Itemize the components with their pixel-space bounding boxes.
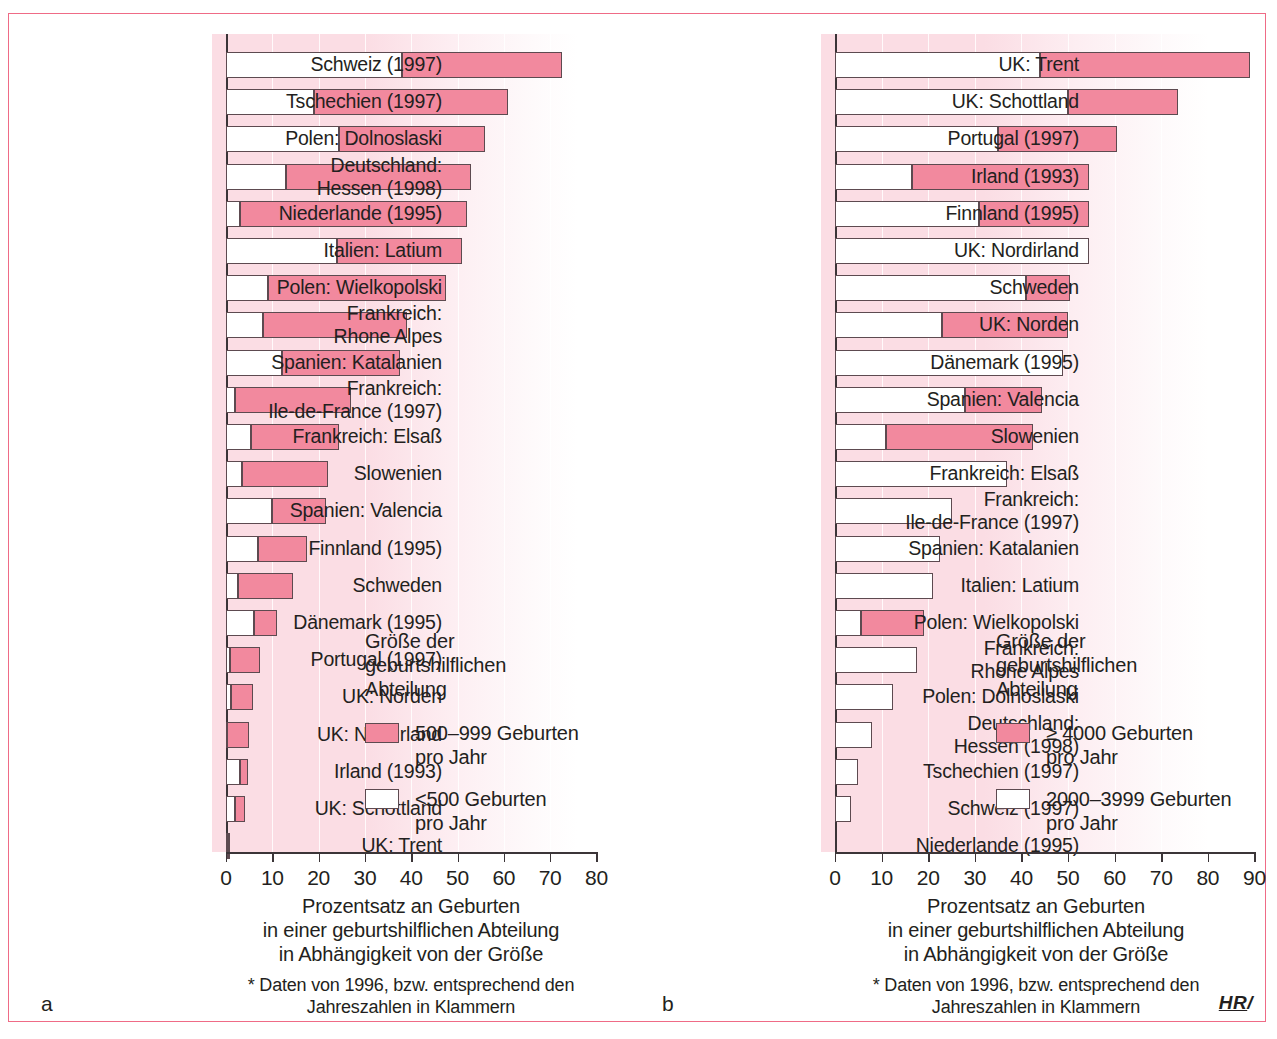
- figure-frame: Schweiz (1997)Tschechien (1997)Polen: Do…: [8, 13, 1266, 1022]
- x-axis-tick: [1068, 854, 1069, 862]
- x-axis-tick: [1115, 854, 1116, 862]
- legend-entry-white-b: 2000–3999 Geburten pro Jahr: [996, 787, 1261, 835]
- x-axis-tick: [411, 854, 412, 862]
- legend-label-pink-b: ≥ 4000 Geburten pro Jahr: [1046, 721, 1193, 769]
- x-axis-tick: [975, 854, 976, 862]
- x-axis-tick: [1161, 854, 1162, 862]
- legend-b: Größe der geburtshilflichen Abteilung ≥ …: [996, 629, 1261, 853]
- category-label: Irland (1993): [626, 165, 1079, 187]
- x-axis-tick: [1208, 854, 1209, 862]
- x-axis-tick-label: 0: [815, 866, 855, 890]
- category-label: Spanien: Valencia: [626, 388, 1079, 410]
- legend-swatch-pink-icon-b: [996, 723, 1030, 743]
- category-label: Spanien: Katalanien: [9, 351, 442, 373]
- x-axis-tick-label: 30: [345, 866, 385, 890]
- category-label: Polen: Wielkopolski: [9, 276, 442, 298]
- x-axis-tick-label: 70: [530, 866, 570, 890]
- x-axis-tick: [365, 854, 366, 862]
- legend-a: Größe der geburtshilflichen Abteilung 50…: [365, 629, 615, 853]
- category-label: Spanien: Valencia: [9, 499, 442, 521]
- category-label: Slowenien: [9, 462, 442, 484]
- legend-label-pink-a: 500–999 Geburten pro Jahr: [415, 721, 579, 769]
- x-axis-tick: [226, 854, 227, 862]
- footnote-a: * Daten von 1996, bzw. entsprechend den …: [181, 974, 641, 1018]
- x-axis-tick: [835, 854, 836, 862]
- category-label: UK: Trent: [626, 53, 1079, 75]
- category-label: Schweiz (1997): [9, 53, 442, 75]
- bar-segment-upper: [1068, 89, 1178, 115]
- panel-letter-a: a: [41, 992, 53, 1016]
- x-axis-tick: [928, 854, 929, 862]
- legend-swatch-white-icon-a: [365, 789, 399, 809]
- x-axis-tick-label: 60: [484, 866, 524, 890]
- x-axis-tick-label: 30: [955, 866, 995, 890]
- panel-b: UK: TrentUK: SchottlandPortugal (1997)Ir…: [626, 14, 1267, 1021]
- legend-label-white-a: <500 Geburten pro Jahr: [415, 787, 546, 835]
- legend-entry-white-a: <500 Geburten pro Jahr: [365, 787, 615, 835]
- category-label: Niederlande (1995): [9, 202, 442, 224]
- category-label: Schweden: [626, 276, 1079, 298]
- legend-swatch-pink-icon-a: [365, 723, 399, 743]
- x-axis-tick: [1254, 854, 1255, 862]
- x-axis-tick-label: 0: [206, 866, 246, 890]
- legend-label-white-b: 2000–3999 Geburten pro Jahr: [1046, 787, 1231, 835]
- x-axis-tick-label: 80: [576, 866, 616, 890]
- x-axis-tick-label: 20: [299, 866, 339, 890]
- credit-text: HR: [1219, 992, 1247, 1013]
- legend-title-a: Größe der geburtshilflichen Abteilung: [365, 629, 615, 701]
- x-axis-tick: [272, 854, 273, 862]
- x-axis-tick: [319, 854, 320, 862]
- legend-entry-pink-a: 500–999 Geburten pro Jahr: [365, 721, 615, 769]
- x-axis-tick-label: 50: [1048, 866, 1088, 890]
- x-axis-tick-label: 10: [862, 866, 902, 890]
- panel-letter-b: b: [662, 992, 674, 1016]
- x-axis-tick-label: 90: [1234, 866, 1274, 890]
- category-label: UK: Norden: [626, 313, 1079, 335]
- x-axis-tick-label: 10: [252, 866, 292, 890]
- category-label: Portugal (1997): [626, 127, 1079, 149]
- category-label: Frankreich: Ile-de-France (1997): [626, 488, 1079, 534]
- x-axis-tick: [596, 854, 597, 862]
- x-axis-tick: [550, 854, 551, 862]
- x-axis-tick-label: 50: [438, 866, 478, 890]
- category-label: Finnland (1995): [626, 202, 1079, 224]
- x-axis-tick-label: 60: [1095, 866, 1135, 890]
- legend-title-b: Größe der geburtshilflichen Abteilung: [996, 629, 1261, 701]
- credit-mark: HR/: [1219, 992, 1253, 1014]
- x-axis-tick: [1021, 854, 1022, 862]
- category-label: Deutschland: Hessen (1998): [9, 154, 442, 200]
- category-label: Finnland (1995): [9, 537, 442, 559]
- category-label: Slowenien: [626, 425, 1079, 447]
- category-label: Schweden: [9, 574, 442, 596]
- x-axis-tick-label: 70: [1141, 866, 1181, 890]
- category-label: Tschechien (1997): [9, 90, 442, 112]
- category-label: Polen: Dolnoslaski: [9, 127, 442, 149]
- category-label: Frankreich: Elsaß: [626, 462, 1079, 484]
- legend-swatch-white-icon-b: [996, 789, 1030, 809]
- x-axis-tick-label: 40: [1001, 866, 1041, 890]
- x-axis-tick: [458, 854, 459, 862]
- x-axis-tick-label: 20: [908, 866, 948, 890]
- axis-caption-a: Prozentsatz an Geburten in einer geburts…: [161, 894, 661, 966]
- x-axis-tick-label: 80: [1188, 866, 1228, 890]
- category-label: UK: Nordirland: [626, 239, 1079, 261]
- category-label: Spanien: Katalanien: [626, 537, 1079, 559]
- category-label: Frankreich: Rhone Alpes: [9, 302, 442, 348]
- x-axis-tick: [504, 854, 505, 862]
- axis-caption-b: Prozentsatz an Geburten in einer geburts…: [786, 894, 1277, 966]
- legend-entry-pink-b: ≥ 4000 Geburten pro Jahr: [996, 721, 1261, 769]
- category-label: Frankreich: Ile-de-France (1997): [9, 377, 442, 423]
- category-label: Italien: Latium: [626, 574, 1079, 596]
- category-label: Dänemark (1995): [626, 351, 1079, 373]
- category-label: UK: Schottland: [626, 90, 1079, 112]
- category-label: Italien: Latium: [9, 239, 442, 261]
- x-axis-tick-label: 40: [391, 866, 431, 890]
- x-axis-tick: [882, 854, 883, 862]
- footnote-b: * Daten von 1996, bzw. entsprechend den …: [806, 974, 1266, 1018]
- panel-a: Schweiz (1997)Tschechien (1997)Polen: Do…: [9, 14, 638, 1021]
- category-label: Frankreich: Elsaß: [9, 425, 442, 447]
